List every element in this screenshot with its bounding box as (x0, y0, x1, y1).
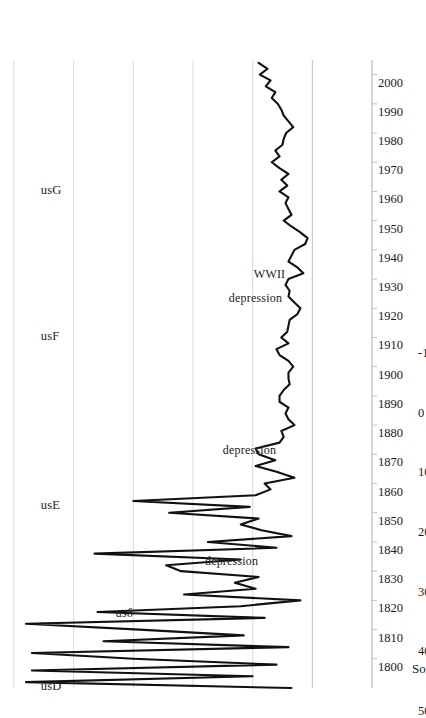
y-axis-tick-label: 100 (418, 465, 426, 480)
x-axis-tick-label: 1830 (378, 572, 403, 587)
annotation-use: usE (41, 498, 60, 513)
x-axis-tick-label: 1810 (378, 631, 403, 646)
x-axis-tick-label: 1850 (378, 514, 403, 529)
y-axis-tick-label: 300 (418, 585, 426, 600)
chart-figure-rotator: 5004003002001000-100 1800181018201830184… (0, 0, 426, 718)
x-axis-tick-label: 1940 (378, 251, 403, 266)
x-axis-tick-label: 1970 (378, 163, 403, 178)
x-axis-tick-label: 1840 (378, 543, 403, 558)
x-axis-tick-label: 1880 (378, 426, 403, 441)
x-axis-tick-label: 1910 (378, 338, 403, 353)
x-axis-tick-label: 1980 (378, 134, 403, 149)
x-axis-tick-label: 1890 (378, 397, 403, 412)
annotation-usdelta: usδ (115, 606, 133, 621)
x-axis-tick-label: 1800 (378, 660, 403, 675)
annotation-wwii: WWII (254, 267, 285, 282)
source-note: Sources: USPTO Online (412, 661, 426, 677)
x-axis-tick-label: 1950 (378, 222, 403, 237)
x-axis-tick-label: 1920 (378, 309, 403, 324)
x-axis-tick-label: 1990 (378, 105, 403, 120)
patent-growth-line-chart: 5004003002001000-100 1800181018201830184… (0, 0, 426, 718)
y-axis-tick-label: 500 (418, 704, 426, 718)
x-axis-tick-group (372, 75, 377, 659)
x-axis-tick-label: 1900 (378, 368, 403, 383)
y-axis-tick-label: 0 (418, 406, 424, 421)
x-axis-tick-label: 1820 (378, 601, 403, 616)
data-series-line (26, 63, 308, 688)
annotation-depression-3: depression (229, 291, 282, 306)
annotation-depression-1: depression (205, 554, 258, 569)
annotation-usf: usF (41, 329, 60, 344)
annotation-usg: usG (41, 183, 62, 198)
annotation-depression-2: depression (223, 443, 276, 458)
y-axis-tick-label: 400 (418, 644, 426, 659)
x-axis-tick-label: 1960 (378, 192, 403, 207)
y-axis-tick-label: 200 (418, 525, 426, 540)
x-axis-tick-label: 2000 (378, 76, 403, 91)
x-axis-tick-label: 1930 (378, 280, 403, 295)
x-axis-tick-label: 1870 (378, 455, 403, 470)
x-axis-tick-label: 1860 (378, 485, 403, 500)
chart-plot-area (0, 0, 426, 718)
y-axis-tick-label: -100 (418, 346, 426, 361)
annotation-usd: usD (41, 679, 62, 694)
